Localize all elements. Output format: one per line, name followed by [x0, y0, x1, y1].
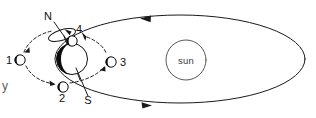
sun-label: sun	[178, 55, 194, 66]
diagram-canvas: sun	[0, 0, 316, 118]
orbit-direction-arrow-bottom	[142, 102, 153, 108]
moon-2-body	[58, 82, 68, 92]
moon-2-label: 2	[59, 92, 65, 104]
moon-3-body	[106, 57, 116, 67]
sun-body: sun	[166, 40, 206, 80]
earth-body	[57, 44, 88, 75]
cropped-left-edge-text: y	[2, 79, 8, 93]
south-pole-label: S	[84, 94, 91, 106]
moon-1-label: 1	[6, 54, 12, 66]
moon-1-body	[15, 55, 25, 65]
moon-4-label: 4	[76, 23, 82, 35]
south-pole-leader-line	[76, 68, 88, 96]
north-pole-label: N	[44, 10, 52, 22]
moon-4-body	[67, 36, 77, 46]
moon-phase-diagram: sun	[0, 0, 316, 118]
moon-3-label: 3	[120, 56, 126, 68]
